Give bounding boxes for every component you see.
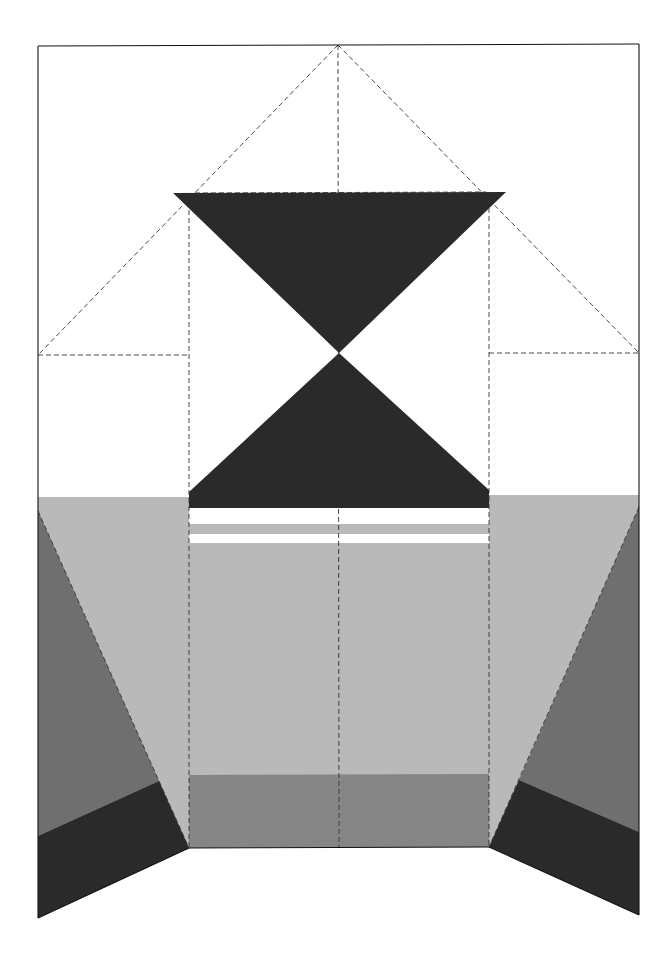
fold-diagram bbox=[0, 0, 657, 955]
diagram-canvas bbox=[0, 0, 657, 955]
